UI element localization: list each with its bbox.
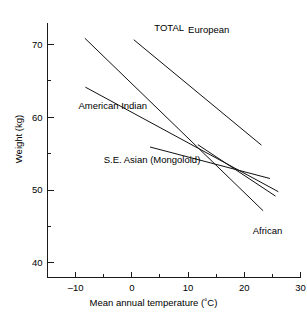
x-tick-label: –10 bbox=[68, 282, 84, 293]
y-tick-label: 60 bbox=[32, 112, 43, 123]
y-axis-title-text: Weight (kg) bbox=[13, 115, 24, 163]
series-label-total-text: TOTAL bbox=[154, 22, 184, 33]
series-label-african-text: African bbox=[253, 225, 283, 236]
series-label-se-asian-text: S.E. Asian (Mongoloid) bbox=[104, 154, 201, 165]
tick-labels-group: 40506070–100102030 bbox=[32, 39, 306, 293]
y-tick-label: 40 bbox=[32, 257, 43, 268]
y-tick-label: 70 bbox=[32, 39, 43, 50]
x-tick-label: 30 bbox=[295, 282, 306, 293]
x-axis-title-text: Mean annual temperature (˚C) bbox=[90, 297, 218, 308]
x-axis-title: Mean annual temperature (˚C) bbox=[0, 297, 307, 308]
chart-figure: 40506070–100102030 Weight (kg) Mean annu… bbox=[0, 0, 307, 315]
series-label-american-indian: American Indian bbox=[78, 100, 147, 111]
y-tick-label: 50 bbox=[32, 184, 43, 195]
series-line-african bbox=[198, 145, 275, 196]
x-tick-label: 10 bbox=[183, 282, 194, 293]
y-axis-title: Weight (kg) bbox=[8, 94, 26, 184]
series-label-total: TOTAL bbox=[154, 22, 184, 33]
axes-group bbox=[48, 23, 301, 278]
series-label-european: European bbox=[188, 24, 229, 35]
x-tick-label: 0 bbox=[129, 282, 134, 293]
series-label-european-text: European bbox=[188, 24, 229, 35]
series-label-se-asian: S.E. Asian (Mongoloid) bbox=[104, 154, 201, 165]
series-line-european bbox=[134, 40, 261, 145]
x-tick-label: 20 bbox=[239, 282, 250, 293]
series-label-american-indian-text: American Indian bbox=[78, 100, 147, 111]
series-label-african: African bbox=[253, 225, 283, 236]
series-lines-group bbox=[85, 39, 278, 211]
